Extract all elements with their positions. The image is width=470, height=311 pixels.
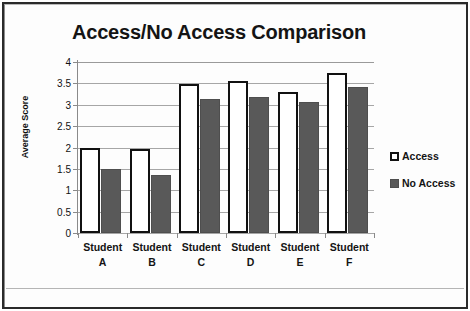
bar-no-access bbox=[101, 169, 121, 233]
y-axis-tick-label: 4 bbox=[65, 57, 71, 68]
bar-group bbox=[179, 62, 220, 233]
y-axis-tick-label: 2 bbox=[65, 142, 71, 153]
x-axis-labels: StudentAStudentBStudentCStudentDStudentE… bbox=[78, 240, 374, 284]
y-axis-tick bbox=[73, 126, 78, 127]
bar-access bbox=[327, 73, 347, 233]
y-axis-tick-label: 1.5 bbox=[57, 163, 71, 174]
y-axis-tick-label: 3.5 bbox=[57, 78, 71, 89]
legend-label: Access bbox=[402, 150, 439, 162]
x-label-line2: D bbox=[226, 255, 275, 270]
y-axis-tick bbox=[73, 105, 78, 106]
legend-item[interactable]: No Access bbox=[390, 177, 466, 189]
chart-screenshot: Access/No Access Comparison Average Scor… bbox=[0, 0, 470, 311]
x-label-line2: A bbox=[78, 255, 127, 270]
x-label-line1: Student bbox=[83, 241, 122, 253]
bar-no-access bbox=[151, 175, 171, 233]
y-axis-tick-label: 0 bbox=[65, 228, 71, 239]
bar-group bbox=[228, 62, 269, 233]
x-axis-tick bbox=[127, 233, 128, 238]
bar-access bbox=[130, 149, 150, 233]
x-label-line1: Student bbox=[280, 241, 319, 253]
x-axis-category-label: StudentD bbox=[226, 240, 275, 270]
bottom-divider bbox=[6, 288, 464, 289]
y-axis-title: Average Score bbox=[20, 82, 30, 172]
x-label-line2: B bbox=[127, 255, 176, 270]
x-axis-category-label: StudentE bbox=[275, 240, 324, 270]
x-axis-category-label: StudentB bbox=[127, 240, 176, 270]
x-label-line2: C bbox=[177, 255, 226, 270]
x-axis-tick bbox=[226, 233, 227, 238]
x-label-line1: Student bbox=[330, 241, 369, 253]
chart-title: Access/No Access Comparison bbox=[4, 21, 434, 44]
chart-legend: AccessNo Access bbox=[390, 150, 466, 204]
legend-item[interactable]: Access bbox=[390, 150, 466, 162]
legend-label: No Access bbox=[402, 177, 455, 189]
y-axis-tick bbox=[73, 148, 78, 149]
y-axis-tick-label: 2.5 bbox=[57, 121, 71, 132]
legend-swatch-icon bbox=[390, 179, 399, 188]
y-axis-tick bbox=[73, 169, 78, 170]
x-axis-tick bbox=[275, 233, 276, 238]
x-axis-tick bbox=[177, 233, 178, 238]
bar-access bbox=[228, 81, 248, 233]
x-label-line1: Student bbox=[132, 241, 171, 253]
y-axis-tick bbox=[73, 190, 78, 191]
plot-area: 43.532.521.510.50 bbox=[78, 62, 374, 233]
bar-no-access bbox=[299, 102, 319, 233]
x-label-line1: Student bbox=[231, 241, 270, 253]
bar-no-access bbox=[348, 87, 368, 233]
bar-access bbox=[179, 84, 199, 233]
y-axis-tick bbox=[73, 212, 78, 213]
x-axis-tick bbox=[325, 233, 326, 238]
bar-access bbox=[278, 92, 298, 233]
x-axis-tick bbox=[374, 233, 375, 238]
bar-group bbox=[278, 62, 319, 233]
bar-no-access bbox=[200, 99, 220, 233]
bar-access bbox=[80, 148, 100, 234]
bar-group bbox=[130, 62, 171, 233]
x-axis-category-label: StudentC bbox=[177, 240, 226, 270]
y-axis-tick-label: 3 bbox=[65, 99, 71, 110]
x-label-line1: Student bbox=[182, 241, 221, 253]
x-axis-category-label: StudentF bbox=[325, 240, 374, 270]
x-label-line2: F bbox=[325, 255, 374, 270]
bar-no-access bbox=[249, 97, 269, 233]
legend-swatch-icon bbox=[390, 152, 399, 161]
chart-container: Access/No Access Comparison Average Scor… bbox=[4, 4, 466, 286]
y-axis-tick bbox=[73, 83, 78, 84]
x-axis-category-label: StudentA bbox=[78, 240, 127, 270]
y-axis-tick-label: 0.5 bbox=[57, 206, 71, 217]
y-axis-tick bbox=[73, 62, 78, 63]
x-label-line2: E bbox=[275, 255, 324, 270]
x-axis-tick bbox=[78, 233, 79, 238]
bar-group bbox=[80, 62, 121, 233]
bar-group bbox=[327, 62, 368, 233]
y-axis-tick-label: 1 bbox=[65, 185, 71, 196]
